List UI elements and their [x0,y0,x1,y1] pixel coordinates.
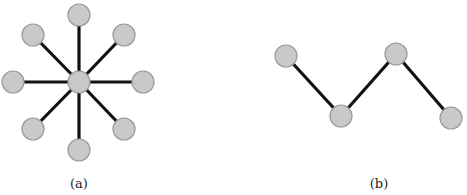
graph-edge [286,56,341,116]
graph-node [330,105,352,127]
graph-node [275,45,297,67]
figure-b: (b) [275,43,462,191]
graph-node [440,107,462,129]
graph-node [385,43,407,65]
graph-node [68,139,90,161]
graph-node [68,4,90,26]
graph-node [113,24,135,46]
graph-node [132,71,154,93]
graph-node [22,24,44,46]
graph-node [22,118,44,140]
graph-node [113,118,135,140]
graph-edge [396,54,451,118]
figure-a: (a) [2,4,154,191]
graph-node [68,71,90,93]
diagram-canvas: (a)(b) [0,0,467,195]
graph-edge [341,54,396,116]
graph-node [2,71,24,93]
figure-caption: (a) [70,176,88,191]
figure-caption: (b) [370,176,388,191]
